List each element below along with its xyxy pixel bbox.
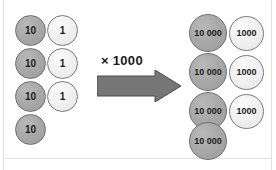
counter-ten-thousand-4: 10 000 bbox=[189, 122, 227, 160]
right-arrow-icon bbox=[97, 70, 181, 102]
counter-one-1: 1 bbox=[47, 15, 78, 46]
counter-ten-4: 10 bbox=[15, 114, 46, 145]
figure-border-right bbox=[271, 0, 272, 170]
figure-border-left bbox=[3, 0, 4, 170]
counter-ten-thousand-1: 10 000 bbox=[189, 14, 227, 52]
counter-ten-3: 10 bbox=[15, 81, 46, 112]
figure-border-bottom bbox=[3, 158, 271, 159]
counter-thousand-2: 1000 bbox=[229, 55, 264, 90]
figure-canvas: 10 10 10 10 1 1 1 × 1000 10 000 10 000 1… bbox=[0, 0, 276, 170]
counter-ten-1: 10 bbox=[15, 15, 46, 46]
counter-ten-thousand-2: 10 000 bbox=[189, 53, 227, 91]
operation-label: × 1000 bbox=[101, 53, 143, 68]
counter-one-3: 1 bbox=[47, 81, 78, 112]
counter-thousand-3: 1000 bbox=[229, 94, 264, 129]
counter-one-2: 1 bbox=[47, 48, 78, 79]
counter-ten-2: 10 bbox=[15, 48, 46, 79]
counter-thousand-1: 1000 bbox=[229, 16, 264, 51]
